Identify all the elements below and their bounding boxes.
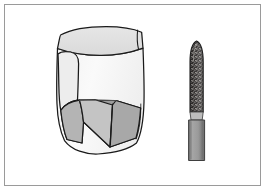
illustration-canvas: [0, 0, 266, 193]
tooth-occlusal-band: [58, 27, 144, 56]
prepared-molar-tooth: [57, 27, 144, 154]
bur-collar: [190, 112, 203, 120]
figure-root: Prepared tooth and tapered diamond bur P…: [0, 0, 266, 193]
tapered-diamond-bur: [188, 38, 206, 161]
